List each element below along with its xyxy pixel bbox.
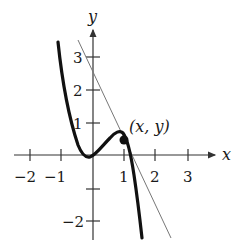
x-tick-label: −1 (44, 168, 66, 186)
tangent-point-marker (120, 136, 129, 145)
x-axis-label: x (222, 145, 231, 164)
function-curve (58, 42, 142, 238)
point-label: (x, y) (129, 117, 170, 136)
y-tick-label: 3 (73, 49, 83, 67)
y-axis-label: y (87, 7, 98, 26)
x-tick-label: −2 (14, 168, 36, 186)
y-tick-label: 2 (73, 82, 83, 100)
x-tick-label: 2 (150, 168, 160, 186)
x-tick-label: 1 (119, 168, 129, 186)
y-tick-label: −2 (62, 213, 84, 231)
x-tick-label: 3 (183, 168, 193, 186)
graph-figure: −2 −1 1 2 3 3 2 1 −2 x y (x, y) (0, 0, 245, 246)
